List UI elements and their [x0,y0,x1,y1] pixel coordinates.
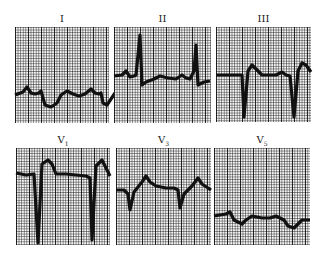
ecg-trace [15,27,109,123]
lead-label-text: V [256,134,263,145]
lead-label: V5 [214,134,310,147]
lead-label-subscript: 5 [264,140,268,147]
ecg-panel-lead-V3: V3 [116,148,211,245]
lead-label-text: I [60,13,64,24]
ecg-panel-lead-V5: V5 [214,148,310,245]
ecg-trace [116,148,211,245]
lead-label: II [114,13,211,24]
lead-label: I [15,13,109,24]
lead-label-subscript: 1 [65,140,69,147]
lead-label: V1 [16,134,110,147]
lead-label-text: III [258,13,270,24]
lead-label-text: V [57,134,64,145]
ecg-panel-lead-III: III [216,27,311,122]
ecg-trace [16,148,110,245]
ecg-panel-lead-V1: V1 [16,148,110,245]
lead-label-subscript: 3 [165,140,169,147]
ecg-trace [214,148,310,245]
ecg-panel-lead-I: I [15,27,109,123]
lead-label-text: II [159,13,167,24]
ecg-trace [114,27,211,123]
lead-label: V3 [116,134,211,147]
ecg-trace [216,27,311,122]
ecg-panel-lead-II: II [114,27,211,123]
lead-label: III [216,13,311,24]
